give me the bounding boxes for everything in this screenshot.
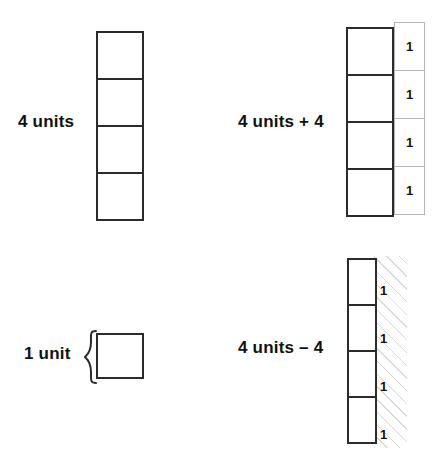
ones-labels-minus: 1 1 1 1 bbox=[377, 266, 397, 458]
unit-square bbox=[346, 74, 394, 123]
unit-square bbox=[96, 125, 144, 174]
one-box: 1 bbox=[394, 118, 425, 167]
unit-square bbox=[96, 172, 144, 221]
unit-square bbox=[347, 258, 377, 306]
one-label: 1 bbox=[377, 410, 397, 458]
unit-stack-four-units bbox=[96, 31, 144, 221]
unit-square bbox=[346, 27, 394, 76]
one-box: 1 bbox=[394, 22, 425, 71]
unit-square bbox=[347, 350, 377, 398]
unit-stack-one-unit bbox=[96, 333, 144, 379]
unit-stack-plus bbox=[346, 27, 394, 217]
unit-stack-minus bbox=[347, 258, 377, 444]
label-four-units: 4 units bbox=[18, 112, 74, 132]
one-label: 1 bbox=[377, 266, 397, 314]
unit-square bbox=[346, 121, 394, 170]
one-box: 1 bbox=[394, 70, 425, 119]
unit-square bbox=[347, 304, 377, 352]
unit-square bbox=[346, 168, 394, 217]
unit-square bbox=[347, 396, 377, 444]
one-box: 1 bbox=[394, 166, 425, 215]
label-four-units-minus-four: 4 units – 4 bbox=[238, 338, 323, 358]
ones-stack-plus: 1 1 1 1 bbox=[394, 22, 425, 215]
unit-square bbox=[96, 333, 144, 379]
one-label: 1 bbox=[377, 314, 397, 362]
label-one-unit: 1 unit bbox=[24, 344, 71, 364]
label-four-units-plus-four: 4 units + 4 bbox=[238, 112, 324, 132]
one-label: 1 bbox=[377, 362, 397, 410]
unit-square bbox=[96, 31, 144, 80]
unit-square bbox=[96, 78, 144, 127]
